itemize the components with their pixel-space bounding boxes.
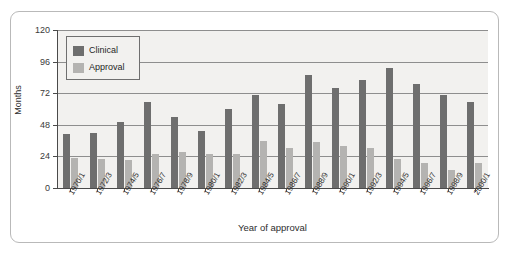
x-axis-tick	[178, 189, 179, 192]
x-axis-tick	[97, 189, 98, 192]
bar-clinical	[305, 75, 312, 188]
x-axis-tick	[421, 189, 422, 192]
gridline	[57, 93, 488, 94]
bar-clinical	[198, 131, 205, 188]
y-axis-title: Months	[13, 70, 23, 130]
x-axis-title: Year of approval	[57, 222, 488, 233]
bar-clinical	[252, 95, 259, 188]
gridline	[57, 30, 488, 31]
x-axis-tick	[286, 189, 287, 192]
x-axis-tick	[151, 189, 152, 192]
bar-clinical	[332, 88, 339, 188]
x-axis-tick	[124, 189, 125, 192]
legend-swatch-clinical	[73, 46, 84, 56]
bar-clinical	[440, 95, 447, 188]
bar-clinical	[171, 117, 178, 188]
bar-clinical	[386, 68, 393, 188]
legend-swatch-approval	[73, 63, 84, 73]
bar-clinical	[467, 102, 474, 188]
bar-clinical	[225, 109, 232, 188]
x-axis-tick	[367, 189, 368, 192]
x-axis-tick	[313, 189, 314, 192]
x-axis-tick	[70, 189, 71, 192]
x-axis-tick	[205, 189, 206, 192]
legend-label-clinical: Clinical	[89, 45, 118, 55]
bar-clinical	[278, 104, 285, 188]
x-axis-tick	[232, 189, 233, 192]
legend-label-approval: Approval	[89, 62, 125, 72]
x-axis-tick	[340, 189, 341, 192]
y-axis-line	[57, 30, 58, 189]
bar-clinical	[359, 80, 366, 188]
legend: Clinical Approval	[66, 36, 140, 80]
bar-clinical	[117, 122, 124, 188]
bar-clinical	[144, 102, 151, 188]
bar-chart: 024487296120 1970/11972/31974/51976/7197…	[0, 0, 513, 256]
bar-clinical	[63, 134, 70, 188]
x-axis-tick	[448, 189, 449, 192]
bar-clinical	[413, 84, 420, 188]
bar-clinical	[90, 133, 97, 188]
x-axis-tick	[475, 189, 476, 192]
x-axis-tick	[259, 189, 260, 192]
x-axis-tick	[394, 189, 395, 192]
